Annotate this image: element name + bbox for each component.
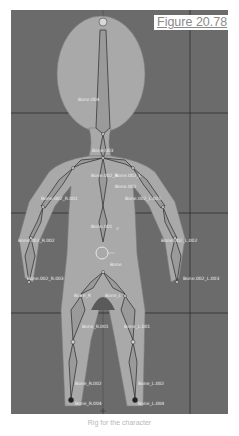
bone-label[interactable]: Bone_L	[105, 293, 121, 298]
bone-label[interactable]: Bone_L.002	[138, 381, 164, 386]
bone-label[interactable]: Bone.003	[92, 148, 113, 153]
bone-label[interactable]: Bone.002_L	[115, 173, 141, 178]
bone-label[interactable]: Bone.002_L.001	[125, 196, 161, 201]
bone-label[interactable]: Bone.002_L.002	[161, 238, 197, 243]
bone-label[interactable]: Bone_L.004	[138, 401, 164, 406]
bone-label[interactable]: Bone.001	[91, 224, 112, 229]
armature-scene	[11, 10, 228, 414]
bone-label[interactable]: Bone_R	[74, 293, 91, 298]
bone-label[interactable]: Bone.004	[78, 97, 99, 102]
bone-label[interactable]: Bone.002_L.003	[183, 276, 219, 281]
bone-label[interactable]: Bone_R.002	[75, 381, 102, 386]
object-origin	[116, 227, 119, 230]
3d-viewport[interactable]: Bone.004Bone.003Bone.002_RBone.002_LBone…	[11, 10, 228, 414]
bone-label[interactable]: Bone.002_R.002	[18, 238, 55, 243]
bone-label[interactable]: Bone	[110, 262, 121, 267]
bone-label[interactable]: Bone_L.001	[124, 324, 150, 329]
bone-label[interactable]: Bone.002_R	[91, 173, 118, 178]
bone-label[interactable]: Bone.002	[115, 184, 136, 189]
bone-label[interactable]: Bone.002_R.001	[41, 196, 78, 201]
bone-label[interactable]: Bone_R.001	[82, 324, 109, 329]
figure-caption: Rig for the character	[0, 419, 239, 426]
bone-label[interactable]: Bone_R.004	[75, 401, 102, 406]
world-origin	[100, 408, 106, 414]
figure-label: Figure 20.78	[154, 15, 230, 30]
bone-label[interactable]: Bone.002_R.003	[27, 276, 64, 281]
